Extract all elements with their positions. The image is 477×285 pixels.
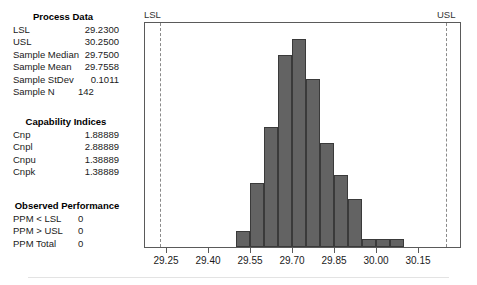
observed-performance-block: Observed Performance PPM < LSL 0 PPM > U…: [0, 200, 140, 250]
usl-label: USL: [437, 9, 455, 20]
histogram-bar: [390, 239, 404, 247]
stat-label: PPM > USL: [0, 225, 74, 237]
axis-tick-label: 30.15: [405, 255, 430, 266]
stat-value: 0: [74, 225, 140, 237]
usl-spec-line: [446, 23, 447, 247]
axis-tick-label: 29.25: [153, 255, 178, 266]
stat-row: PPM Total 0: [0, 238, 140, 250]
stat-value: 0: [74, 238, 140, 250]
process-data-block: Process Data LSL 29.2300 USL 30.2500 Sam…: [0, 11, 140, 98]
x-axis-ticks: [144, 248, 461, 253]
observed-performance-rows: PPM < LSL 0 PPM > USL 0 PPM Total 0: [0, 213, 140, 250]
stat-value: 1.88889: [74, 129, 140, 141]
stat-value: 29.2300: [74, 24, 140, 36]
histogram-bar: [306, 79, 320, 247]
axis-tick-label: 29.70: [279, 255, 304, 266]
stat-label: Sample Mean: [0, 61, 74, 73]
stat-value: 1.38889: [74, 166, 140, 178]
process-data-rows: LSL 29.2300 USL 30.2500 Sample Median 29…: [0, 24, 140, 98]
footer-divider: [28, 277, 449, 278]
histogram-bar: [334, 175, 348, 247]
histogram-bar: [362, 239, 376, 247]
plot-area: [145, 23, 460, 247]
stat-value: 1.38889: [74, 154, 140, 166]
histogram-bar: [250, 183, 264, 247]
stat-value: 2.88889: [74, 141, 140, 153]
axis-tick: [166, 248, 167, 253]
stat-label: Cnp: [0, 129, 74, 141]
axis-tick-label: 29.55: [237, 255, 262, 266]
axis-tick: [376, 248, 377, 253]
stat-row: Cnp 1.88889: [0, 129, 140, 141]
statistics-panel: Process Data LSL 29.2300 USL 30.2500 Sam…: [0, 0, 140, 285]
axis-tick: [250, 248, 251, 253]
stat-label: PPM < LSL: [0, 213, 74, 225]
stat-row: PPM < LSL 0: [0, 213, 140, 225]
capability-indices-rows: Cnp 1.88889 Cnpl 2.88889 Cnpu 1.38889 Cn…: [0, 129, 140, 179]
stat-row: USL 30.2500: [0, 36, 140, 48]
stat-row: Sample N 142: [0, 86, 140, 98]
stat-label: Cnpl: [0, 141, 74, 153]
histogram-bar: [292, 39, 306, 247]
stat-label: Sample Median: [0, 49, 74, 61]
histogram-bar: [348, 199, 362, 247]
lsl-spec-line: [160, 23, 161, 247]
histogram-bar: [264, 127, 278, 247]
stat-label: PPM Total: [0, 238, 74, 250]
histogram-bar: [320, 143, 334, 247]
stat-label: LSL: [0, 24, 74, 36]
stat-row: Cnpu 1.38889: [0, 154, 140, 166]
stat-row: Cnpl 2.88889: [0, 141, 140, 153]
stat-value: 29.7500: [74, 49, 140, 61]
axis-tick: [334, 248, 335, 253]
stat-row: Sample Mean 29.7558: [0, 61, 140, 73]
histogram-bar: [376, 239, 390, 247]
process-data-title: Process Data: [0, 11, 140, 22]
stat-label: Sample StDev: [0, 74, 74, 86]
stat-label: Cnpu: [0, 154, 74, 166]
axis-tick: [418, 248, 419, 253]
stat-row: Sample StDev 0.1011: [0, 74, 140, 86]
histogram-bar: [236, 231, 250, 247]
stat-row: Sample Median 29.7500: [0, 49, 140, 61]
stat-value: 30.2500: [74, 36, 140, 48]
axis-tick-label: 30.00: [363, 255, 388, 266]
axis-tick-label: 29.85: [321, 255, 346, 266]
axis-tick: [208, 248, 209, 253]
axis-tick-label: 29.40: [195, 255, 220, 266]
capability-histogram: [144, 22, 461, 248]
lsl-label: LSL: [144, 9, 161, 20]
histogram-bar: [278, 55, 292, 247]
stat-label: USL: [0, 36, 74, 48]
stat-value: 0: [74, 213, 140, 225]
capability-indices-block: Capability Indices Cnp 1.88889 Cnpl 2.88…: [0, 116, 140, 179]
stat-value: 29.7558: [74, 61, 140, 73]
stat-value: 0.1011: [74, 74, 140, 86]
stat-row: Cnpk 1.38889: [0, 166, 140, 178]
axis-tick: [292, 248, 293, 253]
stat-value: 142: [74, 86, 140, 98]
capability-indices-title: Capability Indices: [0, 116, 140, 127]
stat-row: PPM > USL 0: [0, 225, 140, 237]
observed-performance-title: Observed Performance: [0, 200, 140, 211]
x-axis-labels: 29.2529.4029.5529.7029.8530.0030.15: [0, 255, 477, 269]
stat-label: Sample N: [0, 86, 74, 98]
stat-row: LSL 29.2300: [0, 24, 140, 36]
stat-label: Cnpk: [0, 166, 74, 178]
